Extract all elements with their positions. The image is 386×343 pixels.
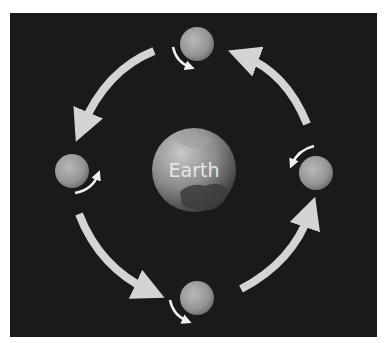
orbit-arrow-left-to-bottom-icon — [79, 214, 150, 291]
moon-right — [292, 146, 333, 190]
moon-orbit-diagram: Earth — [0, 0, 386, 343]
earth: Earth — [152, 128, 236, 212]
moon-icon — [299, 156, 333, 190]
orbit-arrow-top-to-left-icon — [82, 51, 154, 127]
moon-icon — [180, 281, 214, 315]
moon-left — [55, 154, 98, 193]
moon-icon — [55, 154, 89, 188]
earth-label: Earth — [169, 159, 220, 181]
orbit-arrow-bottom-to-right-icon — [241, 212, 310, 289]
moon-bottom — [170, 281, 214, 321]
orbit-arrow-right-to-top-icon — [243, 56, 307, 124]
moon-top — [173, 27, 214, 67]
moon-icon — [180, 27, 214, 61]
